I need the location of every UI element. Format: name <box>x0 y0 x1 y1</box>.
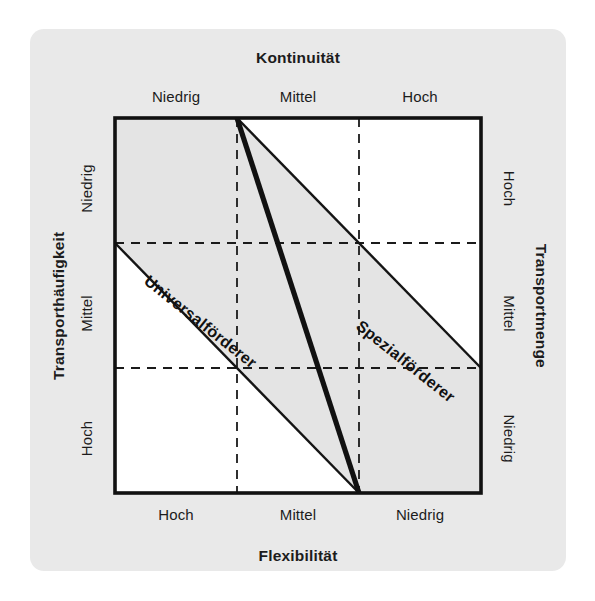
bottom-axis-title: Flexibilität <box>258 548 337 564</box>
bottom-tick-niedrig: Niedrig <box>396 507 444 522</box>
left-axis-title: Transporthäufigkeit <box>51 231 67 381</box>
right-tick-niedrig: Niedrig <box>502 394 517 484</box>
left-tick-niedrig: Niedrig <box>79 144 94 234</box>
top-tick-niedrig: Niedrig <box>152 89 200 104</box>
left-tick-hoch: Hoch <box>79 394 94 484</box>
right-tick-mittel: Mittel <box>502 269 517 359</box>
top-axis-title: Kontinuität <box>256 50 340 66</box>
right-axis-title: Transportmenge <box>533 231 549 381</box>
top-tick-hoch: Hoch <box>402 89 437 104</box>
diagram-canvas: Kontinuität Niedrig Mittel Hoch Hoch Mit… <box>0 0 595 601</box>
left-tick-mittel: Mittel <box>79 269 94 359</box>
right-tick-hoch: Hoch <box>502 144 517 234</box>
top-tick-mittel: Mittel <box>280 89 316 104</box>
bottom-tick-hoch: Hoch <box>158 507 193 522</box>
bottom-tick-mittel: Mittel <box>280 507 316 522</box>
